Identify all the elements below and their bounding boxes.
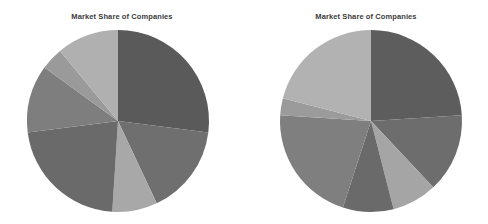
pie-svg-right [280,30,462,212]
left-pie-panel: Market Share of Companies [0,0,244,224]
chart-title-left: Market Share of Companies [0,12,244,21]
chart-title-right: Market Share of Companies [244,12,488,21]
pie-chart-left [27,30,209,212]
pie-wedge [28,121,118,212]
pie-chart-right [280,30,462,212]
pie-chart-figure: Market Share of Companies Market Share o… [0,0,488,224]
right-pie-panel: Market Share of Companies [244,0,488,224]
pie-svg-left [27,30,209,212]
pie-wedge [118,30,209,132]
pie-wedge [371,30,462,121]
